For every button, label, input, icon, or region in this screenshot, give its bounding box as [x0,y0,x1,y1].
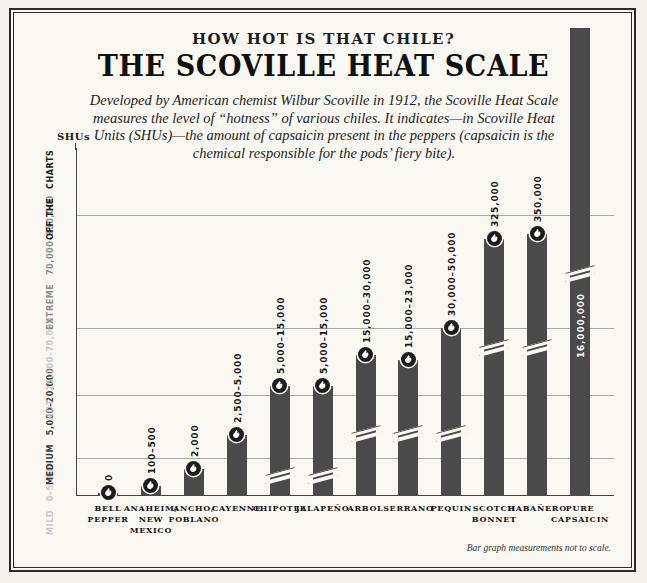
chili-pepper-icon [186,461,201,476]
bar-slot[interactable]: 5,000–15,000 [304,148,342,496]
zone-name: OFF THE [46,197,55,239]
zone-range: CHARTS [46,149,55,197]
chili-pepper-icon [229,427,244,442]
category-label-line: CAPSAICIN [549,514,611,525]
bar-slot[interactable]: 325,000 [475,148,513,496]
bar-value-label: 5,000–15,000 [319,297,329,374]
category-label: PURECAPSAICIN [549,503,611,525]
bar-value-label: 15,000–30,000 [362,259,372,343]
chili-pepper-icon [101,485,116,500]
bar[interactable] [227,435,247,496]
chili-pepper-icon [358,347,373,362]
zone-label-off-the: OFF THE CHARTS [46,120,56,240]
bar-slot[interactable]: 100–500 [132,148,170,496]
infographic-page: HOW HOT IS THAT CHILE? THE SCOVILLE HEAT… [0,0,647,583]
y-axis-label: SHUs [57,131,90,142]
category-label-line: POBLANO [163,514,225,525]
bar[interactable] [527,234,547,496]
bar-slot[interactable]: 15,000–30,000 [347,148,385,496]
page-title: THE SCOVILLE HEAT SCALE [0,48,647,83]
bar-value-label: 2,500–5,000 [233,353,243,423]
zone-name: MILD [46,510,55,535]
bar-value-label: 5,000–15,000 [276,297,286,374]
bar[interactable] [441,328,461,496]
chart-footnote: Bar graph measurements not to scale. [467,543,611,553]
chili-pepper-icon [487,231,502,246]
chili-pepper-icon [315,378,330,393]
category-label-line: MEXICO [120,525,182,536]
y-axis-line [76,148,77,496]
chili-pepper-icon [143,478,158,493]
category-label-line: BONNET [463,514,525,525]
bar[interactable] [398,360,418,496]
bar-value-label: 0 [104,474,114,481]
bar-chart-plot: MILD 0–5,000MEDIUM 5,000–20,000HOT 25,00… [76,148,614,496]
bar-slot[interactable]: 16,000,000 [561,148,599,496]
bar-value-label: 325,000 [490,180,500,227]
bar-slot[interactable]: 350,000 [518,148,556,496]
chili-pepper-icon [401,352,416,367]
bar-slot[interactable]: 5,000–15,000 [261,148,299,496]
category-label-line: PURE [549,503,611,514]
bar-value-label: 2,000 [190,425,200,457]
bar[interactable] [484,239,504,496]
bar-value-label: 30,000–50,000 [447,232,457,316]
bar-slot[interactable]: 2,500–5,000 [218,148,256,496]
bar[interactable] [313,386,333,496]
bar-slot[interactable]: 0 [89,148,127,496]
chili-pepper-icon [272,378,287,393]
zone-name: EXTREME [46,283,55,329]
chili-pepper-icon [530,226,545,241]
kicker-headline: HOW HOT IS THAT CHILE? [0,30,647,48]
bar-slot[interactable]: 15,000–23,000 [389,148,427,496]
bar-slot[interactable]: 30,000–50,000 [432,148,470,496]
zone-name: HOT [46,399,55,420]
bar-slot[interactable]: 2,000 [175,148,213,496]
bar[interactable] [570,28,590,496]
chili-pepper-icon [444,320,459,335]
bar-value-label: 16,000,000 [576,293,586,358]
bar-value-label: 15,000–23,000 [404,264,414,348]
bar[interactable] [270,386,290,496]
zone-name: MEDIUM [46,443,55,484]
bar[interactable] [356,355,376,496]
bar-value-label: 350,000 [533,175,543,222]
bar-value-label: 100–500 [147,426,157,474]
